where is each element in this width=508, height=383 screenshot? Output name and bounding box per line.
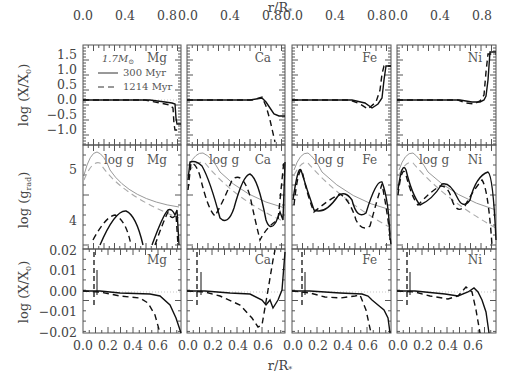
svg-text:0.6: 0.6 — [463, 338, 483, 353]
tick: 0.8 — [367, 8, 387, 23]
legend-solid-label: 300 Myr — [123, 67, 166, 78]
svg-text:log g: log g — [104, 153, 135, 167]
svg-text:−0.01: −0.01 — [39, 304, 77, 319]
tick: 0.0 — [388, 8, 408, 23]
row3-curves — [83, 250, 496, 333]
svg-text:0.6: 0.6 — [253, 338, 273, 353]
svg-text:0.4: 0.4 — [333, 338, 353, 353]
svg-text:0.2: 0.2 — [98, 338, 118, 353]
svg-text:Mg: Mg — [147, 153, 167, 167]
svg-text:−0.5: −0.5 — [47, 107, 77, 122]
svg-text:Ca: Ca — [255, 51, 271, 65]
svg-text:0.2: 0.2 — [413, 338, 433, 353]
svg-text:0.2: 0.2 — [203, 338, 223, 353]
svg-text:Fe: Fe — [362, 51, 377, 65]
svg-text:Ni: Ni — [468, 153, 483, 167]
svg-text:Mg: Mg — [147, 253, 167, 267]
tick: 0.4 — [115, 8, 135, 23]
svg-text:0.0: 0.0 — [283, 338, 303, 353]
tick: 0.8 — [472, 8, 492, 23]
bottom-axis-label: r/R* — [268, 358, 292, 374]
legend-dashed-label: 1214 Myr — [123, 81, 173, 92]
svg-text:0.5: 0.5 — [57, 77, 77, 92]
svg-text:0.0: 0.0 — [178, 338, 198, 353]
svg-text:−1.0: −1.0 — [47, 122, 77, 137]
svg-text:0.6: 0.6 — [358, 338, 378, 353]
svg-text:4: 4 — [69, 213, 77, 228]
svg-text:5: 5 — [69, 162, 77, 177]
svg-text:0.6: 0.6 — [148, 338, 168, 353]
tick: 0.4 — [430, 8, 450, 23]
svg-text:0.00: 0.00 — [49, 284, 77, 299]
row1-yticks: 1.5 1.0 0.5 0.0 −0.5 −1.0 — [47, 47, 77, 137]
svg-text:0.2: 0.2 — [308, 338, 328, 353]
svg-text:0.4: 0.4 — [438, 338, 458, 353]
svg-text:−0.02: −0.02 — [39, 325, 77, 340]
svg-text:1.5: 1.5 — [57, 47, 77, 62]
svg-text:Fe: Fe — [362, 153, 377, 167]
row1-ylabel: log (X/X0) — [16, 64, 33, 127]
tick: 0.4 — [325, 8, 345, 23]
svg-text:Ni: Ni — [468, 253, 483, 267]
svg-text:0.02: 0.02 — [49, 243, 77, 258]
svg-text:0.01: 0.01 — [49, 263, 77, 278]
row1-curves — [83, 52, 496, 142]
tick: 0.0 — [73, 8, 93, 23]
row3-yticks: 0.02 0.01 0.00 −0.01 −0.02 — [39, 243, 77, 340]
row3-ylabel: log (X/X0) — [16, 261, 33, 324]
tick: 0.0 — [178, 8, 198, 23]
tick: 0.4 — [220, 8, 240, 23]
svg-text:Mg: Mg — [147, 51, 167, 65]
svg-text:0.0: 0.0 — [388, 338, 408, 353]
tick: 0.8 — [157, 8, 177, 23]
figure: .frame{fill:none;stroke:#555;stroke-widt… — [0, 0, 508, 383]
svg-text:1.0: 1.0 — [57, 62, 77, 77]
svg-text:0.4: 0.4 — [228, 338, 248, 353]
svg-text:0.4: 0.4 — [123, 338, 143, 353]
svg-text:Ca: Ca — [255, 153, 271, 167]
svg-text:Ca: Ca — [255, 253, 271, 267]
svg-text:0.0: 0.0 — [57, 92, 77, 107]
svg-text:0.0: 0.0 — [73, 338, 93, 353]
top-axis-label: r/R* — [268, 0, 292, 16]
svg-text:Fe: Fe — [362, 253, 377, 267]
legend-mass: 1.7M⊙ — [102, 53, 134, 66]
row2-yticks: 5 4 — [69, 162, 77, 228]
row2-ylabel: log (grad) — [16, 172, 33, 229]
svg-text:log g: log g — [209, 153, 240, 167]
svg-text:Ni: Ni — [468, 51, 483, 65]
bottom-x-ticks: 0.0 0.2 0.4 0.6 0.0 0.2 0.4 0.6 0.0 0.2 … — [73, 338, 483, 353]
